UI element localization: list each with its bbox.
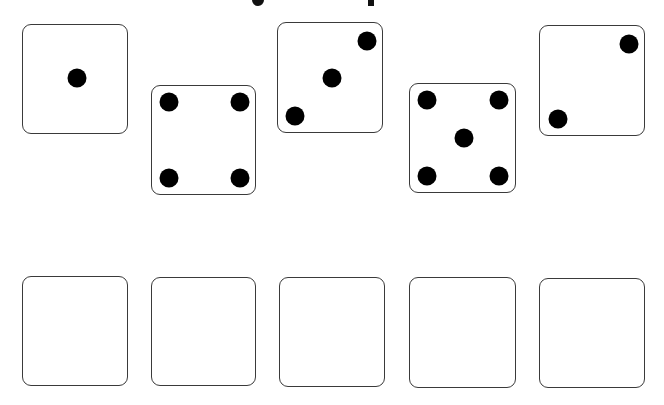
pip-icon (418, 91, 437, 110)
empty-slot-5[interactable] (539, 278, 645, 388)
die-face-2[interactable] (539, 25, 645, 136)
pip-icon (160, 169, 179, 188)
pip-icon (549, 110, 568, 129)
die-face-4[interactable] (151, 85, 256, 195)
pip-icon (323, 69, 342, 88)
pip-icon (231, 169, 250, 188)
empty-slot-1[interactable] (22, 276, 128, 386)
pip-icon (455, 129, 474, 148)
pip-icon (490, 167, 509, 186)
empty-slot-3[interactable] (279, 277, 385, 387)
pip-icon (160, 93, 179, 112)
pip-icon (620, 35, 639, 54)
die-face-1[interactable] (22, 24, 128, 134)
empty-slot-4[interactable] (409, 277, 516, 388)
pip-icon (68, 69, 87, 88)
pip-icon (490, 91, 509, 110)
pip-icon (418, 167, 437, 186)
title-descender (368, 0, 374, 6)
die-face-5[interactable] (409, 83, 516, 193)
pip-icon (286, 107, 305, 126)
empty-slot-2[interactable] (151, 277, 256, 386)
title-descender (252, 0, 264, 6)
pip-icon (358, 32, 377, 51)
die-face-3[interactable] (277, 22, 383, 133)
pip-icon (231, 93, 250, 112)
